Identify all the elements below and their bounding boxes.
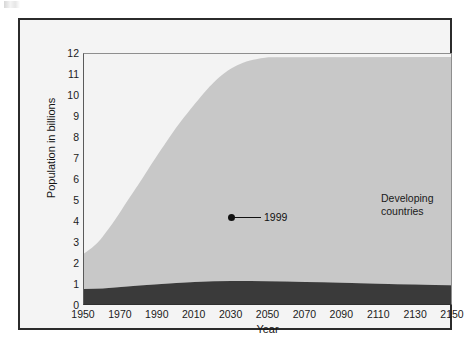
- x-tick-label-2110: 2110: [358, 308, 398, 320]
- x-tick-label-2030: 2030: [211, 308, 251, 320]
- stacked-area-chart: [84, 54, 452, 305]
- x-tick-label-2090: 2090: [321, 308, 361, 320]
- x-tick-label-2130: 2130: [395, 308, 435, 320]
- y-tick-label-5: 5: [57, 195, 79, 205]
- y-tick-label-2: 2: [57, 258, 79, 268]
- x-axis-tick-labels: 1950 1970 1990 2010 2030 2050 2070 2090 …: [83, 308, 452, 324]
- series-label-developing-countries: Developing countries: [381, 192, 434, 217]
- plot-area: Developing countries Developed countries…: [83, 53, 452, 305]
- y-tick-label-1: 1: [57, 279, 79, 289]
- y-tick-label-4: 4: [57, 216, 79, 226]
- x-tick-label-2150: 2150: [432, 308, 469, 320]
- y-tick-label-3: 3: [57, 237, 79, 247]
- figure-frame: Population in billions 12 11 10 9 8 7 6 …: [18, 18, 452, 330]
- x-tick-label-2050: 2050: [248, 308, 288, 320]
- series-label-developing-line1: Developing: [381, 192, 434, 205]
- y-tick-label-11: 11: [57, 69, 79, 79]
- y-tick-label-7: 7: [57, 153, 79, 163]
- y-tick-label-10: 10: [57, 90, 79, 100]
- x-tick-label-1990: 1990: [137, 308, 177, 320]
- annotation-leader-line-1999: [234, 217, 261, 218]
- series-label-developing-line2: countries: [381, 205, 434, 218]
- scan-artifact: [4, 1, 20, 8]
- y-axis-tick-labels: 12 11 10 9 8 7 6 5 4 3 2 1 0: [50, 53, 79, 305]
- x-tick-label-2070: 2070: [284, 308, 324, 320]
- x-tick-label-2010: 2010: [174, 308, 214, 320]
- x-tick-label-1970: 1970: [100, 308, 140, 320]
- x-axis-title: Year: [83, 323, 452, 335]
- annotation-label-1999: 1999: [264, 211, 287, 223]
- y-tick-label-9: 9: [57, 111, 79, 121]
- figure-page: Population in billions 12 11 10 9 8 7 6 …: [0, 0, 469, 346]
- y-tick-label-8: 8: [57, 132, 79, 142]
- y-tick-label-12: 12: [57, 48, 79, 58]
- y-tick-label-6: 6: [57, 174, 79, 184]
- area-developing-countries: [84, 57, 452, 289]
- x-tick-label-1950: 1950: [63, 308, 103, 320]
